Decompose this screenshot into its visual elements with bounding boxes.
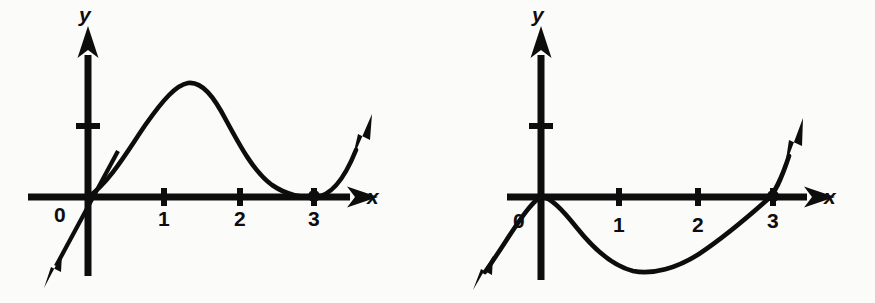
right-tick-label-3: 3 bbox=[767, 209, 779, 232]
left-y-axis-label: y bbox=[78, 3, 92, 26]
left-x-axis-label: x bbox=[366, 185, 380, 208]
right-curve bbox=[485, 156, 789, 272]
right-tick-label-1: 1 bbox=[613, 213, 625, 236]
right-root-dot bbox=[767, 190, 779, 202]
left-graph-panel: x y 0 1 2 3 bbox=[0, 0, 438, 303]
figure-canvas: x y 0 1 2 3 bbox=[0, 0, 875, 303]
left-tick-label-1: 1 bbox=[158, 207, 170, 230]
right-curve-start-arrowhead bbox=[473, 256, 493, 290]
right-graph-panel: x y 0 1 2 3 bbox=[437, 0, 875, 303]
left-tangent-arrowhead bbox=[44, 254, 62, 288]
left-origin-label: 0 bbox=[54, 203, 66, 226]
right-tick-label-2: 2 bbox=[692, 213, 704, 236]
left-y-axis-arrowhead bbox=[78, 26, 99, 58]
left-tick-label-3: 3 bbox=[308, 207, 320, 230]
left-tick-label-2: 2 bbox=[234, 207, 246, 230]
right-y-axis-arrowhead bbox=[531, 26, 552, 58]
left-tangency-dot bbox=[308, 190, 320, 202]
right-x-axis-label: x bbox=[823, 185, 837, 208]
right-origin-label: 0 bbox=[513, 209, 525, 232]
right-y-axis-label: y bbox=[531, 3, 545, 26]
left-curve bbox=[88, 83, 356, 197]
